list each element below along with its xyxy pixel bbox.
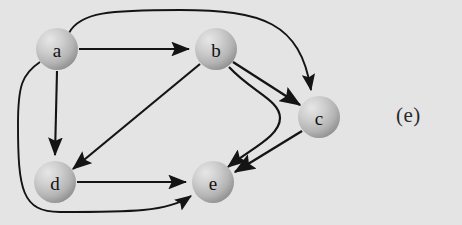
edge-a-d [55,71,57,155]
figure-panel: a b c d e (e) [0,0,462,225]
edge-b-e [228,67,280,167]
graph-node-a[interactable]: a [36,28,78,70]
edge-b-d [73,64,200,169]
directed-graph-diagram: a b c d e [0,0,462,225]
graph-node-e[interactable]: e [192,161,234,203]
graph-node-d[interactable]: d [34,161,76,203]
node-a-label: a [53,40,62,61]
graph-node-c[interactable]: c [298,96,340,138]
node-b-label: b [211,40,221,61]
graph-node-b[interactable]: b [195,28,237,70]
node-layer: a b c d e [34,28,340,203]
node-e-label: e [209,173,217,194]
node-c-label: c [315,108,323,129]
panel-caption: (e) [396,103,421,128]
node-d-label: d [50,173,60,194]
